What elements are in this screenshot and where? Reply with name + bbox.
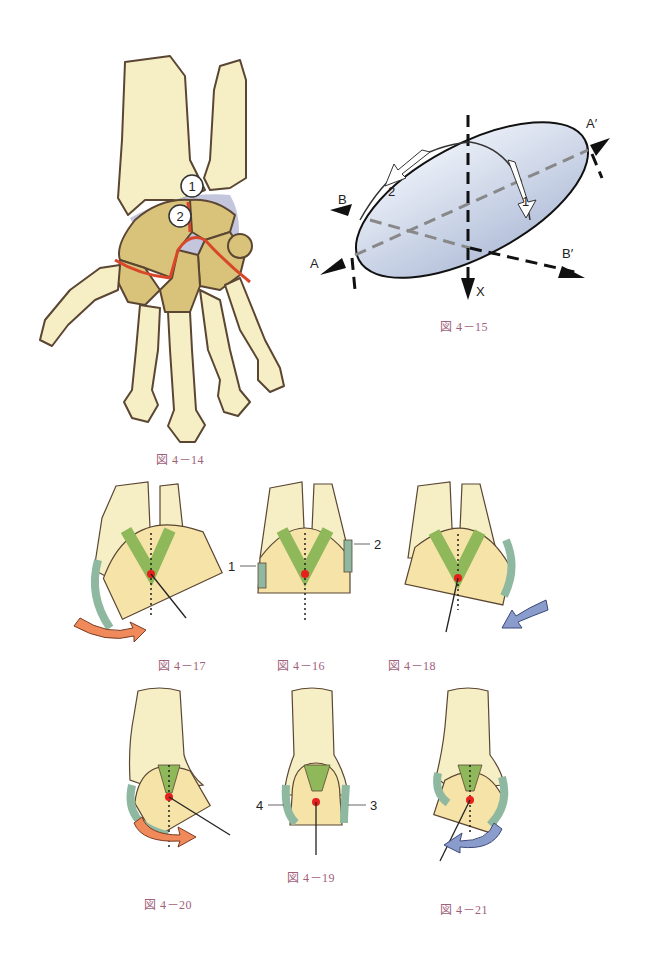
caption-fig-4-20: 図 4－20 (144, 895, 192, 913)
axis-label-x: X (476, 284, 485, 299)
wrist-skeleton-drawing: 1 2 (40, 50, 300, 450)
rotation-label-1: 1 (522, 194, 529, 209)
caption-fig-4-19: 図 4－19 (287, 868, 335, 886)
caption-fig-4-15: 図 4－15 (440, 317, 488, 335)
svg-text:2: 2 (176, 209, 183, 224)
label-4: 4 (256, 798, 263, 813)
label-2: 2 (374, 537, 381, 552)
figure-4-15-ellipsoid-axes: 1 2 A A′ B B′ X (310, 90, 630, 310)
figure-4-21-extension (430, 685, 540, 850)
axis-label-b-prime: B′ (562, 246, 574, 261)
figure-4-19-neutral-sagittal: 4 3 (270, 685, 390, 855)
caption-fig-4-21: 図 4－21 (440, 900, 488, 918)
caption-fig-4-18: 図 4－18 (388, 656, 436, 674)
caption-fig-4-17: 図 4－17 (158, 656, 206, 674)
figure-4-18-radial-deviation (398, 478, 548, 648)
rotation-label-2: 2 (388, 184, 395, 199)
figure-4-14-wrist-skeleton: 1 2 (40, 50, 300, 450)
ellipsoid-drawing: 1 2 A A′ B B′ X (310, 90, 630, 310)
figure-4-17-ulnar-deviation (88, 478, 238, 648)
figure-4-20-flexion (118, 685, 248, 850)
label-3: 3 (370, 798, 377, 813)
svg-text:1: 1 (188, 179, 195, 194)
axis-label-b: B (338, 192, 347, 207)
caption-fig-4-16: 図 4－16 (277, 656, 325, 674)
marker-1: 1 (181, 175, 203, 197)
figure-4-16-neutral: 1 2 (240, 478, 390, 648)
axis-label-a-prime: A′ (586, 116, 598, 131)
marker-2: 2 (169, 205, 191, 227)
axis-label-a: A (310, 256, 319, 271)
caption-fig-4-14: 図 4－14 (156, 450, 204, 468)
label-1: 1 (228, 559, 235, 574)
